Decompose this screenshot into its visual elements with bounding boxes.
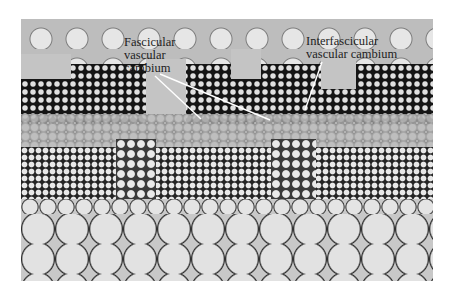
cortex-gap (21, 54, 71, 79)
cortex-gap (231, 49, 261, 79)
label-interfascicular-vascular-cambium: Interfascicular vascular cambium (306, 35, 397, 61)
label-line: cambium (124, 62, 175, 75)
label-line: vascular cambium (306, 48, 397, 61)
label-fascicular-vascular-cambium: Fascicular vascular cambium (124, 36, 175, 75)
pith-parenchyma (21, 214, 433, 281)
